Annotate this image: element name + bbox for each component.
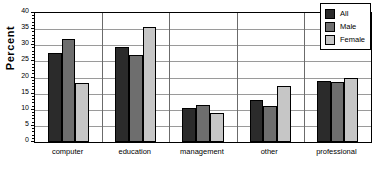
legend-swatch-icon <box>325 35 335 45</box>
x-axis-category-labels: computereducationmanagementotherprofessi… <box>34 147 372 161</box>
bar <box>277 86 291 142</box>
bar <box>75 83 89 142</box>
y-tick-label: 20 <box>21 72 29 80</box>
x-axis-label: management <box>168 147 235 156</box>
x-axis-label: education <box>101 147 168 156</box>
bar <box>115 47 129 142</box>
bar <box>182 108 196 142</box>
legend-item[interactable]: All <box>325 7 365 20</box>
y-axis-ticks: 0510152025303540 <box>0 12 34 143</box>
bar <box>48 53 62 142</box>
x-axis-label: computer <box>34 147 101 156</box>
bar <box>210 113 224 142</box>
bar <box>129 55 143 142</box>
x-axis-label: professional <box>303 147 370 156</box>
y-tick-label: 35 <box>21 23 29 31</box>
bar <box>62 39 76 142</box>
legend-swatch-icon <box>325 9 335 19</box>
x-axis-label: other <box>236 147 303 156</box>
legend-item[interactable]: Female <box>325 33 365 46</box>
y-tick-label: 40 <box>21 7 29 15</box>
bar <box>263 106 277 142</box>
legend-label: Female <box>340 35 365 44</box>
bar-chart: Percent 0510152025303540 computereducati… <box>0 0 374 170</box>
y-tick-label: 10 <box>21 104 29 112</box>
group-separator <box>169 13 170 142</box>
bar <box>143 27 157 142</box>
gridline <box>35 61 371 62</box>
bar <box>344 78 358 143</box>
group-separator <box>237 13 238 142</box>
gridline <box>35 78 371 79</box>
y-tick-label: 0 <box>25 136 29 144</box>
bar <box>331 82 345 142</box>
legend-label: Male <box>340 22 356 31</box>
y-tick-label: 5 <box>25 120 29 128</box>
legend-item[interactable]: Male <box>325 20 365 33</box>
legend: AllMaleFemale <box>320 3 371 50</box>
bar <box>250 100 264 142</box>
group-separator <box>102 13 103 142</box>
y-tick-label: 30 <box>21 39 29 47</box>
y-tick-label: 15 <box>21 88 29 96</box>
bar <box>317 81 331 142</box>
y-tick-label: 25 <box>21 55 29 63</box>
group-separator <box>304 13 305 142</box>
legend-swatch-icon <box>325 22 335 32</box>
legend-label: All <box>340 9 348 18</box>
bar <box>196 105 210 142</box>
